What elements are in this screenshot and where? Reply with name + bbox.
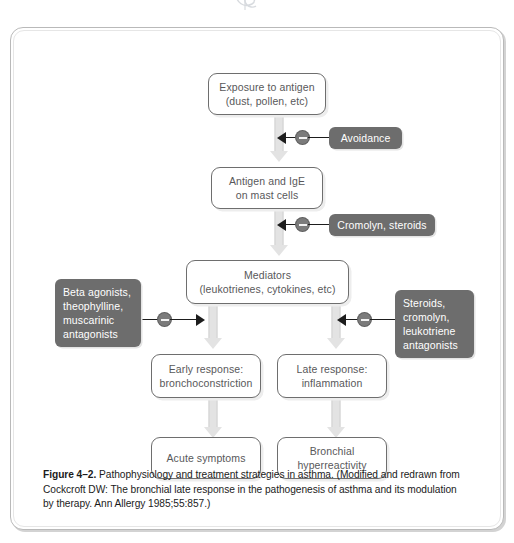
node-antigen-and-ige[interactable]: Antigen and IgE on mast cells <box>211 167 323 209</box>
node-antigen-ige-line1: Antigen and IgE <box>229 174 305 188</box>
drug-beta-agonists-line4: antagonists <box>63 327 131 341</box>
drug-avoidance-line1: Avoidance <box>341 131 391 145</box>
drug-steroids-cromolyn-line3: leukotriene <box>403 324 458 338</box>
asthma-pathophysiology-diagram: Exposure to antigen (dust, pollen, etc) … <box>11 28 514 498</box>
inhibition-connector-beta-agonists <box>141 313 205 327</box>
drug-beta-agonists-line1: Beta agonists, <box>63 285 131 299</box>
node-antigen-ige-line2: on mast cells <box>229 188 305 202</box>
node-acute-symptoms-line1: Acute symptoms <box>166 451 245 465</box>
drug-label-beta-agonists[interactable]: Beta agonists, theophylline, muscarinic … <box>55 279 141 347</box>
figure-caption-text: Pathophysiology and treatment strategies… <box>43 469 460 509</box>
drug-label-steroids-cromolyn[interactable]: Steroids, cromolyn, leukotriene antagoni… <box>395 290 474 358</box>
partial-logo-glyph <box>232 0 258 11</box>
figure-caption-label: Figure 4–2. <box>43 469 96 480</box>
inhibition-connector-steroids-cromolyn <box>337 313 395 327</box>
node-late-response-line1: Late response: <box>297 362 368 376</box>
figure-frame: Exposure to antigen (dust, pollen, etc) … <box>10 27 504 530</box>
node-mediators-line2: (leukotrienes, cytokines, etc) <box>199 282 335 296</box>
drug-beta-agonists-line2: theophylline, <box>63 299 131 313</box>
drug-beta-agonists-line3: muscarinic <box>63 313 131 327</box>
node-late-response[interactable]: Late response: inflammation <box>277 354 387 398</box>
node-late-response-line2: inflammation <box>297 376 368 390</box>
node-mediators[interactable]: Mediators (leukotrienes, cytokines, etc) <box>186 260 349 304</box>
figure-caption: Figure 4–2. Pathophysiology and treatmen… <box>43 468 463 512</box>
node-exposure-line2: (dust, pollen, etc) <box>219 94 314 108</box>
drug-steroids-cromolyn-line4: antagonists <box>403 338 458 352</box>
drug-steroids-cromolyn-line1: Steroids, <box>403 296 458 310</box>
node-exposure-to-antigen[interactable]: Exposure to antigen (dust, pollen, etc) <box>208 73 326 115</box>
inhibition-connector-cromolyn-steroids <box>277 218 329 232</box>
node-mediators-line1: Mediators <box>199 268 335 282</box>
inhibition-connector-avoidance <box>277 131 329 145</box>
node-early-response[interactable]: Early response: bronchoconstriction <box>151 354 261 398</box>
node-bronchial-hyperreactivity-line1: Bronchial <box>297 444 366 458</box>
flow-arrow-antigen-to-mediators <box>267 208 291 256</box>
drug-label-cromolyn-steroids[interactable]: Cromolyn, steroids <box>329 214 435 236</box>
drug-label-avoidance[interactable]: Avoidance <box>329 127 402 149</box>
node-early-response-line1: Early response: <box>160 362 253 376</box>
drug-steroids-cromolyn-line2: cromolyn, <box>403 310 458 324</box>
flow-arrow-late-to-bronchial-hyperreactivity <box>324 400 348 438</box>
flow-arrow-early-to-acute-symptoms <box>201 400 225 438</box>
node-early-response-line2: bronchoconstriction <box>160 376 253 390</box>
node-exposure-line1: Exposure to antigen <box>219 80 314 94</box>
drug-cromolyn-steroids-line1: Cromolyn, steroids <box>337 218 426 232</box>
